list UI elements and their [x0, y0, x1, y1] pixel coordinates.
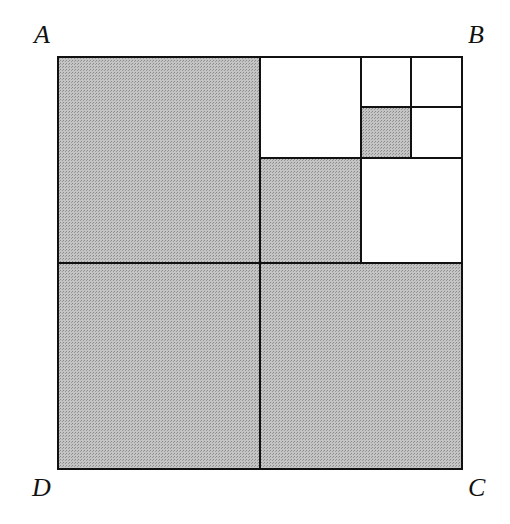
tr-bottom-left-square — [260, 158, 361, 263]
bottom-right-quadrant — [260, 263, 462, 469]
nested-squares-diagram — [0, 0, 510, 524]
vertex-label-d: D — [32, 475, 51, 501]
vertex-label-a: A — [34, 22, 50, 48]
tr2-bottom-left-square — [361, 107, 411, 158]
top-left-quadrant — [58, 57, 260, 263]
bottom-left-quadrant — [58, 263, 260, 469]
vertex-label-b: B — [468, 22, 484, 48]
vertex-label-c: C — [468, 475, 485, 501]
